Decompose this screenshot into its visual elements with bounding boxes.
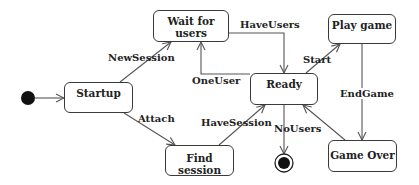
- initial-state: [21, 91, 35, 105]
- label-endgame: EndGame: [340, 88, 394, 99]
- final-state-core: [278, 157, 290, 169]
- label-attach: Attach: [138, 113, 175, 124]
- label-oneuser: OneUser: [192, 75, 240, 86]
- label-start: Start: [303, 54, 331, 65]
- state-play-game: Play game: [328, 14, 396, 44]
- label-newsession: NewSession: [108, 52, 175, 63]
- arrow-oneuser: [201, 42, 250, 74]
- state-ready: Ready: [250, 73, 318, 105]
- arrow-haveusers: [229, 33, 284, 73]
- label-havesession: HaveSession: [201, 117, 272, 128]
- label-haveusers: HaveUsers: [240, 19, 300, 30]
- label-nousers: NoUsers: [274, 123, 321, 134]
- state-game-over: Game Over: [328, 140, 397, 172]
- state-find-session: Find session: [165, 145, 234, 176]
- state-diagram: Startup Wait for users Ready Play game F…: [0, 0, 419, 185]
- state-startup: Startup: [64, 82, 133, 113]
- state-wait-for-users: Wait for users: [153, 10, 229, 42]
